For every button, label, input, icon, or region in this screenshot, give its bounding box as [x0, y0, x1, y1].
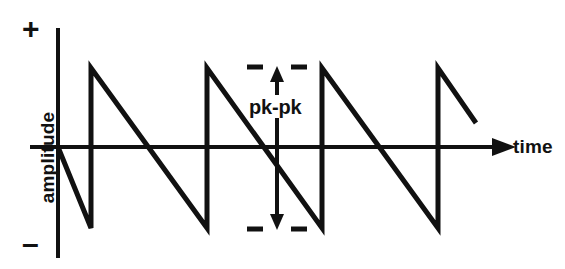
waveform-figure: + – amplitude time pk-pk — [0, 0, 565, 269]
y-axis-title: amplitude — [38, 103, 57, 213]
arrow-down-icon — [270, 214, 284, 230]
waveform-diagram-svg — [0, 0, 565, 269]
y-axis-positive-marker: + — [22, 14, 40, 44]
y-axis-negative-marker: – — [22, 229, 39, 259]
arrow-up-icon — [270, 66, 284, 82]
x-axis-title: time — [513, 137, 553, 156]
peak-to-peak-annotation-label: pk-pk — [249, 97, 301, 117]
